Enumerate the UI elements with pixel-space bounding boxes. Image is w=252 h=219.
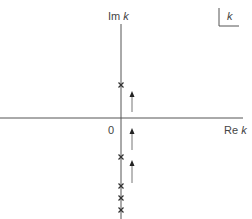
motion-arrows (130, 91, 135, 183)
arrow-up-icon (130, 128, 135, 150)
origin-label: 0 (108, 124, 114, 136)
arrow-up-icon (130, 160, 135, 183)
imaginary-axis-label: Im k (108, 10, 129, 22)
arrow-up-icon (130, 91, 135, 112)
k-plane-diagram (0, 0, 252, 219)
re-text: Re (224, 124, 238, 136)
re-variable: k (241, 124, 247, 136)
corner-k-label: k (227, 10, 233, 22)
im-text: Im (108, 10, 120, 22)
real-axis-label: Re k (224, 124, 247, 136)
im-variable: k (123, 10, 129, 22)
